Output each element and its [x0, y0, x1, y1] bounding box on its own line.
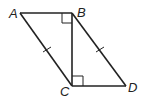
label-b: B: [77, 6, 86, 19]
label-d: D: [128, 81, 137, 94]
right-angle-mark-c: [72, 76, 83, 86]
segment-bd: [72, 13, 126, 86]
parallelogram-diagram: [0, 0, 144, 101]
segment-ac: [20, 13, 72, 86]
label-c: C: [60, 85, 69, 98]
label-a: A: [9, 7, 18, 20]
right-angle-mark-b: [62, 13, 72, 23]
